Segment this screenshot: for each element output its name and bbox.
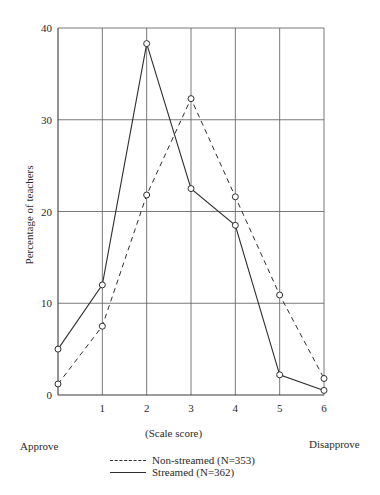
legend-label-streamed: Streamed (N=362): [152, 466, 234, 478]
y-axis-title: Percentage of teachers: [23, 166, 35, 265]
legend: Non-streamed (N=353) Streamed (N=362): [110, 454, 255, 478]
x-tick-label: 4: [233, 402, 239, 414]
data-point-non-streamed: [277, 292, 283, 298]
solid-line-swatch-icon: [110, 472, 146, 473]
y-axis-ticks: 010203040: [41, 22, 53, 401]
data-point-streamed: [277, 372, 283, 378]
legend-item-streamed: Streamed (N=362): [110, 466, 255, 478]
x-axis-ticks: 123456: [100, 402, 328, 414]
legend-item-non-streamed: Non-streamed (N=353): [110, 454, 255, 466]
x-tick-label: 3: [188, 402, 194, 414]
approve-end-label: Approve: [20, 440, 59, 452]
data-point-streamed: [55, 346, 61, 352]
data-point-non-streamed: [232, 194, 238, 200]
grid-lines: [58, 28, 324, 395]
dashed-line-swatch-icon: [110, 460, 146, 461]
data-point-streamed: [144, 41, 150, 47]
data-point-streamed: [321, 387, 327, 393]
data-point-non-streamed: [99, 323, 105, 329]
data-point-non-streamed: [55, 381, 61, 387]
data-point-non-streamed: [188, 96, 194, 102]
data-point-streamed: [99, 282, 105, 288]
x-tick-label: 1: [100, 402, 106, 414]
y-tick-label: 10: [41, 297, 53, 309]
disapprove-end-label: Disapprove: [309, 438, 360, 450]
data-point-non-streamed: [321, 375, 327, 381]
data-point-streamed: [232, 222, 238, 228]
x-tick-label: 6: [321, 402, 327, 414]
y-tick-label: 40: [41, 22, 53, 34]
legend-label-non-streamed: Non-streamed (N=353): [152, 454, 255, 466]
line-chart: 010203040 123456 Percentage of teachers: [0, 0, 380, 495]
y-tick-label: 20: [41, 206, 53, 218]
x-tick-label: 5: [277, 402, 283, 414]
y-tick-label: 0: [47, 389, 53, 401]
data-point-non-streamed: [144, 192, 150, 198]
data-point-streamed: [188, 186, 194, 192]
x-tick-label: 2: [144, 402, 150, 414]
x-axis-title: (Scale score): [145, 427, 202, 439]
y-tick-label: 30: [41, 114, 53, 126]
